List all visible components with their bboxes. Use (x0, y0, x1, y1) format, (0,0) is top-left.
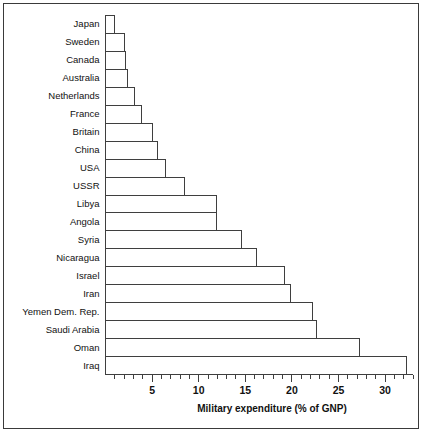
category-label: Saudi Arabia (46, 324, 101, 335)
bar (106, 141, 158, 159)
category-labels-group: JapanSwedenCanadaAustraliaNetherlandsFra… (22, 18, 100, 370)
category-label: Syria (78, 234, 100, 245)
category-label: Iran (83, 288, 99, 299)
bar (106, 213, 217, 231)
x-tick-label: 25 (333, 384, 345, 396)
x-tick-label: 30 (379, 384, 391, 396)
category-label: Yemen Dem. Rep. (22, 306, 99, 317)
x-axis-title: Military expenditure (% of GNP) (197, 403, 346, 414)
bar (106, 303, 313, 321)
x-tick-label: 10 (193, 384, 205, 396)
category-label: Australia (63, 72, 101, 83)
bar (106, 285, 291, 303)
category-label: Angola (70, 216, 100, 227)
bar (106, 357, 407, 375)
bar (106, 231, 242, 249)
bar (106, 123, 153, 141)
bar (106, 51, 126, 69)
x-tick-label: 15 (239, 384, 251, 396)
bar (106, 16, 115, 34)
x-tick-label: 20 (286, 384, 298, 396)
category-label: Oman (74, 342, 100, 353)
bar (106, 69, 128, 87)
category-label: Japan (74, 18, 100, 29)
chart-figure: JapanSwedenCanadaAustraliaNetherlandsFra… (0, 0, 423, 433)
bar (106, 195, 217, 213)
bar (106, 105, 142, 123)
category-label: Israel (76, 270, 99, 281)
category-label: Canada (66, 54, 100, 65)
bar (106, 321, 317, 339)
bar (106, 87, 135, 105)
x-tick-labels-group: 51015202530 (149, 384, 391, 396)
category-label: China (75, 144, 101, 155)
bar (106, 249, 257, 267)
x-tick-label: 5 (149, 384, 155, 396)
category-label: Iraq (83, 360, 99, 371)
category-label: Britain (73, 126, 100, 137)
category-label: France (70, 108, 100, 119)
bar (106, 177, 185, 195)
category-label: Sweden (65, 36, 99, 47)
bar (106, 339, 360, 357)
bars-group (106, 16, 407, 375)
category-label: Netherlands (48, 90, 99, 101)
category-label: USSR (73, 180, 100, 191)
category-label: USA (80, 162, 100, 173)
bar-chart-plot: JapanSwedenCanadaAustraliaNetherlandsFra… (0, 0, 423, 433)
bar (106, 33, 125, 51)
category-label: Libya (77, 198, 100, 209)
bar (106, 267, 285, 285)
bar (106, 159, 166, 177)
category-label: Nicaragua (56, 252, 100, 263)
